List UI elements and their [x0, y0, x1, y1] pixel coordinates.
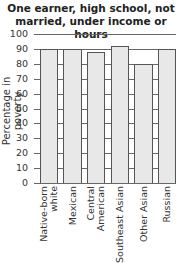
y-tick-label: 20 — [8, 147, 28, 158]
y-tick-label: 100 — [8, 28, 28, 39]
x-tick-label: Southeast Asian — [115, 186, 125, 263]
x-tick-label-line: Southeast Asian — [115, 186, 125, 263]
bar — [158, 49, 176, 183]
plot-area: 0102030405060708090100 — [34, 34, 176, 183]
x-tick-label-line: white — [49, 186, 59, 242]
bar — [111, 46, 129, 183]
y-tick-label: 60 — [8, 88, 28, 99]
x-tick-label-line: Russian — [162, 186, 172, 223]
y-tick-label: 30 — [8, 132, 28, 143]
y-tick-label: 40 — [8, 117, 28, 128]
y-tick-label: 0 — [8, 177, 28, 188]
x-tick-label-line: Other Asian — [139, 186, 149, 242]
y-tick-label: 10 — [8, 162, 28, 173]
y-tick-label: 80 — [8, 58, 28, 69]
x-tick-label: Mexican — [68, 186, 78, 225]
gridline — [34, 183, 176, 184]
x-tick-label-line: American — [96, 186, 106, 231]
y-tick-label: 70 — [8, 73, 28, 84]
y-tick-label: 50 — [8, 103, 28, 114]
bar — [40, 49, 58, 183]
gridline — [34, 34, 176, 35]
x-tick-label: Russian — [162, 186, 172, 223]
x-tick-label: CentralAmerican — [86, 186, 106, 231]
x-tick-label: Native-bornwhite — [39, 186, 59, 242]
bar — [87, 52, 105, 183]
x-tick-label: Other Asian — [139, 186, 149, 242]
bar — [134, 64, 152, 183]
chart-title-line-1: One earner, high school, not — [0, 2, 182, 15]
y-tick-label: 90 — [8, 43, 28, 54]
x-tick-label-line: Mexican — [68, 186, 78, 225]
bar — [63, 49, 81, 183]
